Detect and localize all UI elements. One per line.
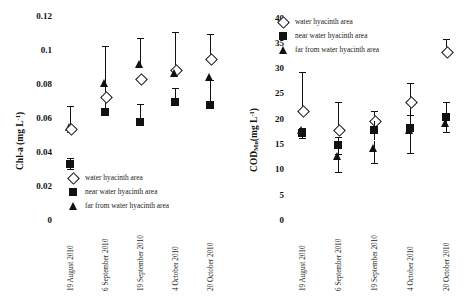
- marker-near-water-hyacinth: [334, 141, 342, 149]
- error-bar-cap: [335, 137, 342, 138]
- filled-square-icon: [68, 186, 79, 197]
- error-bar-cap: [172, 32, 179, 33]
- x-tick-label: 6 September 2010: [335, 239, 343, 291]
- x-tick-label: 6 September 2010: [102, 239, 110, 291]
- marker-near-water-hyacinth: [171, 98, 179, 106]
- error-bar-cap: [299, 138, 306, 139]
- open-diamond-icon: [68, 172, 79, 183]
- error-bar-cap: [335, 102, 342, 103]
- marker-near-water-hyacinth: [406, 124, 414, 132]
- error-bar-cap: [443, 132, 450, 133]
- error-bar-cap: [443, 102, 450, 103]
- marker-water-hyacinth: [205, 53, 218, 66]
- marker-far-from-water-hyacinth: [100, 79, 108, 87]
- x-tick-label: 19 September 2010: [371, 235, 379, 291]
- x-tick-label: 19 August 2010: [67, 245, 75, 291]
- legend-label: far from water hyacinth area: [295, 45, 379, 54]
- error-bar-cap: [407, 115, 414, 116]
- error-bar: [175, 32, 176, 68]
- marker-near-water-hyacinth: [370, 126, 378, 134]
- error-bar: [210, 80, 211, 102]
- error-bar-cap: [137, 38, 144, 39]
- x-tick-label: 20 October 2010: [207, 243, 215, 291]
- figure-root: Chl-a (mg L-1) 0.12 0.1 0.08 0.06 0.04 0…: [0, 0, 468, 298]
- filled-triangle-icon: [68, 200, 79, 211]
- marker-far-from-water-hyacinth: [333, 152, 341, 160]
- error-bar-cap: [67, 169, 74, 170]
- marker-far-from-water-hyacinth: [441, 119, 449, 127]
- marker-water-hyacinth: [297, 105, 310, 118]
- marker-near-water-hyacinth: [298, 129, 306, 137]
- error-bar-cap: [102, 46, 109, 47]
- error-bar-cap: [335, 172, 342, 173]
- marker-near-water-hyacinth: [101, 108, 109, 116]
- marker-water-hyacinth: [333, 124, 346, 137]
- error-bar-cap: [207, 34, 214, 35]
- error-bar-cap: [207, 80, 214, 81]
- marker-water-hyacinth: [135, 73, 148, 86]
- legend-label: near water hyacinth area: [85, 187, 157, 196]
- open-diamond-icon: [278, 16, 289, 27]
- marker-far-from-water-hyacinth: [369, 144, 377, 152]
- x-tick-label: 4 October 2010: [172, 246, 180, 291]
- legend-label: far from water hyacinth area: [85, 201, 169, 210]
- error-bar-cap: [137, 104, 144, 105]
- legend-label: water hyacinth area: [295, 17, 353, 26]
- x-tick-label: 20 October 2010: [443, 243, 451, 291]
- marker-water-hyacinth: [100, 91, 113, 104]
- legend-label: near water hyacinth area: [295, 31, 367, 40]
- error-bar-cap: [371, 163, 378, 164]
- x-tick-label: 19 August 2010: [299, 245, 307, 291]
- x-tick-label: 4 October 2010: [407, 246, 415, 291]
- error-bar-cap: [407, 83, 414, 84]
- error-bar-cap: [299, 72, 306, 73]
- error-bar-cap: [67, 106, 74, 107]
- marker-water-hyacinth: [441, 46, 454, 59]
- chart-panel-cod-mn: CODMn(mg L-1) 40 35 30 25 20 15 10 5 0: [234, 0, 468, 298]
- marker-far-from-water-hyacinth: [135, 60, 143, 68]
- error-bar-cap: [443, 39, 450, 40]
- error-bar-cap: [371, 111, 378, 112]
- marker-near-water-hyacinth: [206, 101, 214, 109]
- error-bar-cap: [407, 153, 414, 154]
- error-bar-cap: [172, 88, 179, 89]
- marker-water-hyacinth: [405, 96, 418, 109]
- chart-panel-chl-a: Chl-a (mg L-1) 0.12 0.1 0.08 0.06 0.04 0…: [0, 0, 234, 298]
- marker-near-water-hyacinth: [136, 118, 144, 126]
- x-tick-label: 19 September 2010: [137, 235, 145, 291]
- marker-near-water-hyacinth: [66, 160, 74, 168]
- filled-square-icon: [278, 30, 289, 41]
- error-bar-cap: [67, 158, 74, 159]
- filled-triangle-icon: [278, 44, 289, 55]
- marker-far-from-water-hyacinth: [170, 69, 178, 77]
- error-bar: [410, 115, 411, 153]
- legend-label: water hyacinth area: [85, 173, 143, 182]
